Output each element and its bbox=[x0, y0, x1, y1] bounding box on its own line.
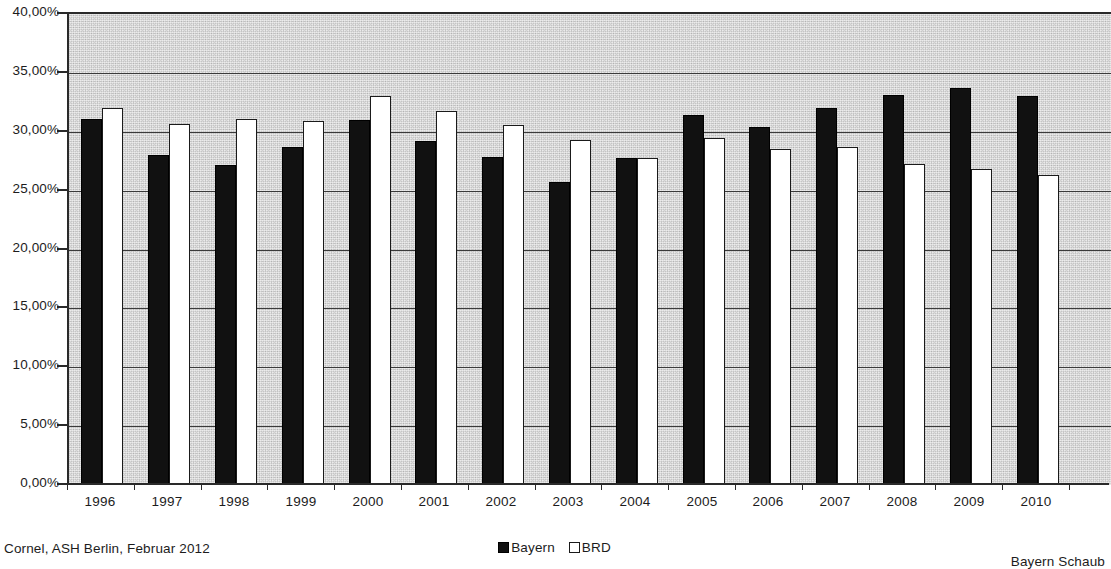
bar-bayern-2007 bbox=[816, 108, 837, 485]
x-tick-mark bbox=[869, 483, 870, 490]
x-tick-label: 2000 bbox=[338, 494, 398, 509]
bar-brd-2004 bbox=[637, 158, 658, 485]
legend-swatch-brd-icon bbox=[569, 542, 580, 553]
y-tick-label: 30,00% bbox=[0, 122, 59, 137]
bar-brd-2002 bbox=[503, 125, 524, 485]
x-tick-label: 2009 bbox=[939, 494, 999, 509]
x-tick-label: 2008 bbox=[872, 494, 932, 509]
x-tick-mark bbox=[1069, 483, 1070, 490]
bar-bayern-2002 bbox=[482, 157, 503, 486]
x-tick-label: 2004 bbox=[605, 494, 665, 509]
x-tick-label: 2006 bbox=[738, 494, 798, 509]
legend-label: BRD bbox=[582, 540, 611, 555]
y-tick-label: 5,00% bbox=[0, 416, 59, 431]
gridline-35 bbox=[69, 73, 1111, 74]
plot-area bbox=[67, 12, 1111, 485]
x-tick-label: 1996 bbox=[70, 494, 130, 509]
bar-brd-2009 bbox=[971, 169, 992, 485]
bar-bayern-2004 bbox=[616, 158, 637, 485]
bar-brd-1999 bbox=[303, 121, 324, 485]
bar-bayern-2009 bbox=[950, 88, 971, 485]
x-tick-label: 1997 bbox=[137, 494, 197, 509]
legend-entry-bayern: Bayern bbox=[498, 540, 555, 555]
x-tick-mark bbox=[1002, 483, 1003, 490]
bar-chart-figure: 0,00%5,00%10,00%15,00%20,00%25,00%30,00%… bbox=[0, 0, 1109, 520]
bar-brd-2005 bbox=[704, 138, 725, 485]
bar-bayern-1999 bbox=[282, 147, 303, 485]
bar-bayern-1998 bbox=[215, 165, 236, 485]
x-axis-line bbox=[67, 483, 1109, 485]
bar-brd-2000 bbox=[370, 96, 391, 485]
x-tick-label: 2007 bbox=[805, 494, 865, 509]
x-tick-label: 2003 bbox=[538, 494, 598, 509]
y-tick-label: 10,00% bbox=[0, 357, 59, 372]
bar-bayern-1997 bbox=[148, 155, 169, 485]
chart-legend: BayernBRD bbox=[0, 540, 1109, 555]
bar-bayern-2008 bbox=[883, 95, 904, 485]
x-tick-label: 2002 bbox=[471, 494, 531, 509]
legend-label: Bayern bbox=[511, 540, 555, 555]
bar-bayern-2010 bbox=[1017, 96, 1038, 485]
bar-bayern-2003 bbox=[549, 182, 570, 485]
x-tick-mark bbox=[668, 483, 669, 490]
bar-brd-2006 bbox=[770, 149, 791, 485]
bar-brd-2008 bbox=[904, 164, 925, 486]
x-tick-mark bbox=[601, 483, 602, 490]
x-tick-mark bbox=[334, 483, 335, 490]
chart-footer: Cornel, ASH Berlin, Februar 2012 BayernB… bbox=[0, 520, 1109, 562]
y-tick-label: 25,00% bbox=[0, 181, 59, 196]
x-tick-label: 1999 bbox=[271, 494, 331, 509]
bar-brd-2007 bbox=[837, 147, 858, 485]
footer-right-note: Bayern Schaub bbox=[1011, 554, 1105, 569]
bar-bayern-2000 bbox=[349, 120, 370, 485]
y-tick-label: 15,00% bbox=[0, 298, 59, 313]
legend-entry-brd: BRD bbox=[569, 540, 611, 555]
y-tick-label: 40,00% bbox=[0, 4, 59, 19]
x-tick-label: 2005 bbox=[672, 494, 732, 509]
x-tick-mark bbox=[67, 483, 68, 490]
x-tick-label: 2010 bbox=[1006, 494, 1066, 509]
x-tick-mark bbox=[201, 483, 202, 490]
bar-brd-1998 bbox=[236, 119, 257, 485]
x-tick-mark bbox=[735, 483, 736, 490]
bar-brd-1997 bbox=[169, 124, 190, 486]
x-tick-mark bbox=[802, 483, 803, 490]
bar-bayern-2005 bbox=[683, 115, 704, 485]
bar-brd-2010 bbox=[1038, 175, 1059, 485]
x-tick-mark bbox=[935, 483, 936, 490]
y-tick-label: 0,00% bbox=[0, 475, 59, 490]
bar-bayern-2006 bbox=[749, 127, 770, 485]
x-tick-label: 1998 bbox=[204, 494, 264, 509]
x-tick-mark bbox=[134, 483, 135, 490]
x-tick-mark bbox=[535, 483, 536, 490]
bar-brd-2003 bbox=[570, 140, 591, 485]
x-tick-mark bbox=[401, 483, 402, 490]
x-tick-mark bbox=[267, 483, 268, 490]
x-tick-label: 2001 bbox=[404, 494, 464, 509]
y-tick-label: 35,00% bbox=[0, 63, 59, 78]
bar-bayern-2001 bbox=[415, 141, 436, 485]
legend-swatch-bayern-icon bbox=[498, 542, 509, 553]
bar-bayern-1996 bbox=[81, 119, 102, 485]
bar-brd-2001 bbox=[436, 111, 457, 485]
bar-brd-1996 bbox=[102, 108, 123, 485]
x-tick-mark bbox=[468, 483, 469, 490]
y-tick-label: 20,00% bbox=[0, 240, 59, 255]
